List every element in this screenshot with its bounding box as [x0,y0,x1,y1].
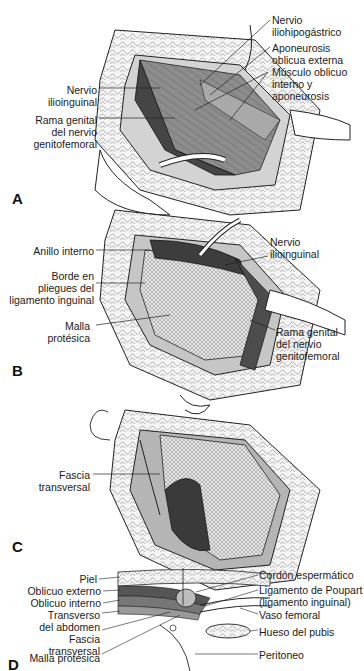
label-a-musculo-oblicuo-interno: Músculo oblicuo interno y aponeurosis [272,66,347,102]
label-d-oblicuo-externo: Oblicuo externo [0,585,101,597]
label-d-vaso-femoral: Vaso femoral [259,609,320,621]
label-a-nervio-ilioinguinal: Nervio ilioinguinal [0,84,97,108]
label-a-rama-genital: Rama genital del nervio genitofemoral [0,114,97,150]
panel-letter-c: C [12,538,23,555]
label-d-transverso: Transverso del abdomen [0,609,100,633]
label-d-piel: Piel [0,573,97,585]
panel-letter-d: D [8,656,19,671]
label-b-anillo-interno: Anillo interno [0,245,94,257]
label-b-nervio-ilioinguinal: Nervio ilioinguinal [270,236,319,260]
panel-letter-b: B [12,362,23,379]
label-d-hueso-pubis: Hueso del pubis [259,626,334,638]
label-a-nervio-iliohipogastrico: Nervio iliohipogástrico [272,14,341,38]
label-d-oblicuo-interno: Oblicuo interno [0,597,101,609]
label-d-cordon-espermatico: Cordón espermático [259,569,354,581]
label-b-malla-protesica: Malla protésica [0,320,90,344]
label-b-borde-pliegues: Borde en pliegues del ligamento inguinal [0,270,94,306]
panel-letter-a: A [12,190,23,207]
label-d-peritoneo: Peritoneo [259,649,304,661]
label-a-aponeurosis-oblicua-externa: Aponeurosis oblicua externa [272,42,343,66]
label-c-fascia-transversal: Fascia transversal [0,469,90,493]
label-b-rama-genital: Rama genital del nervio genitofemoral [276,326,340,362]
label-d-ligamento-poupart: Ligamento de Poupart (ligamento inguinal… [259,584,362,608]
